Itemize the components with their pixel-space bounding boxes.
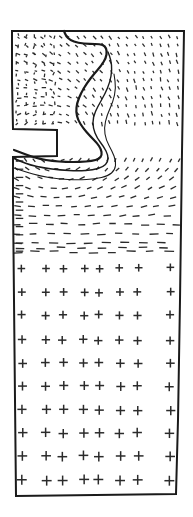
vector-field-plot — [0, 0, 193, 517]
plot-background — [0, 0, 193, 517]
vector-field-figure — [0, 0, 193, 517]
